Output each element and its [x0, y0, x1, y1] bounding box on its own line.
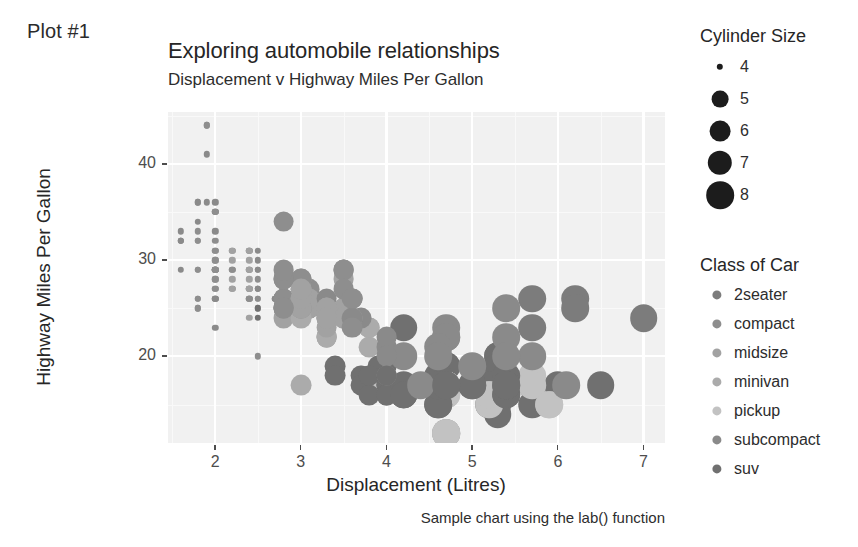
scatter-point — [212, 247, 218, 253]
y-tick-label: 20 — [138, 346, 156, 364]
x-tick-mark — [471, 445, 473, 450]
scatter-point — [212, 286, 218, 292]
legend-class-of-car-item[interactable]: suv — [700, 454, 820, 483]
legend-class-of-car-label: suv — [734, 460, 759, 478]
scatter-point — [407, 371, 435, 399]
scatter-point — [424, 343, 452, 371]
y-tick-label: 40 — [138, 154, 156, 172]
legend-class-of-car-item[interactable]: compact — [700, 309, 820, 338]
legend-cylinder-size-item[interactable]: 6 — [700, 115, 806, 147]
x-tick-label: 2 — [211, 453, 220, 471]
scatter-point — [458, 352, 486, 380]
scatter-point — [333, 259, 354, 280]
scatter-point — [325, 365, 346, 386]
scatter-point — [195, 228, 201, 234]
x-tick-mark — [386, 445, 388, 450]
scatter-point — [203, 122, 209, 128]
x-tick-mark — [214, 445, 216, 450]
legend-class-of-car-label: midsize — [734, 344, 788, 362]
scatter-point — [246, 267, 252, 273]
legend-cylinder-size-key-icon — [700, 83, 740, 115]
x-tick-label: 7 — [639, 453, 648, 471]
legend-cylinder-size-label: 8 — [740, 186, 749, 204]
x-tick-label: 5 — [468, 453, 477, 471]
scatter-point — [212, 295, 218, 301]
scatter-point — [195, 267, 201, 273]
legend-class-of-car-key-icon — [700, 308, 734, 340]
scatter-point — [273, 298, 294, 319]
x-axis-title: Displacement (Litres) — [326, 474, 506, 496]
scatter-point — [255, 353, 261, 359]
scatter-point — [195, 238, 201, 244]
legend-cylinder-size-item[interactable]: 4 — [700, 51, 806, 83]
legend-cylinder-size-rows: 45678 — [700, 51, 806, 211]
legend-cylinder-size-item[interactable]: 5 — [700, 83, 806, 115]
scatter-point — [255, 276, 261, 282]
scatter-point — [518, 343, 546, 371]
grid-line-minor-horizontal — [168, 212, 665, 213]
legend-cylinder-size-item[interactable]: 8 — [700, 179, 806, 211]
scatter-point — [212, 324, 218, 330]
chart-subtitle: Displacement v Highway Miles Per Gallon — [168, 70, 484, 90]
scatter-point — [316, 308, 337, 329]
legend-cylinder-size-label: 4 — [740, 58, 749, 76]
chart-caption: Sample chart using the lab() function — [421, 509, 665, 526]
y-tick-mark — [162, 259, 167, 261]
legend-cylinder-size-label: 6 — [740, 122, 749, 140]
scatter-point — [246, 257, 252, 263]
scatter-point — [229, 267, 235, 273]
scatter-point — [178, 228, 184, 234]
scatter-point — [178, 267, 184, 273]
y-axis-title: Highway Miles Per Gallon — [33, 168, 55, 386]
legend-class-of-car-item[interactable]: minivan — [700, 367, 820, 396]
legend-class-of-car-item[interactable]: midsize — [700, 338, 820, 367]
scatter-point — [273, 211, 294, 232]
scatter-point — [255, 247, 261, 253]
legend-class-of-car-label: compact — [734, 315, 794, 333]
x-tick-mark — [557, 445, 559, 450]
scatter-point — [376, 327, 397, 348]
scatter-point — [203, 151, 209, 157]
scatter-point — [376, 365, 397, 386]
legend-cylinder-size-key-icon — [700, 115, 740, 147]
legend-class-of-car: Class of Car 2seatercompactmidsizeminiva… — [700, 255, 820, 483]
legend-cylinder-size-item[interactable]: 7 — [700, 147, 806, 179]
legend-cylinder-size-title: Cylinder Size — [700, 26, 806, 47]
legend-class-of-car-key-icon — [700, 337, 734, 369]
legend-class-of-car-title: Class of Car — [700, 255, 820, 276]
scatter-point — [255, 257, 261, 263]
scatter-point — [493, 294, 521, 322]
legend-class-of-car-key-icon — [700, 395, 734, 427]
legend-class-of-car-key-icon — [700, 366, 734, 398]
scatter-point — [493, 343, 521, 371]
plot-page: Plot #1 Exploring automobile relationshi… — [0, 0, 858, 547]
scatter-point — [229, 276, 235, 282]
legend-class-of-car-item[interactable]: subcompact — [700, 425, 820, 454]
scatter-point — [493, 371, 521, 399]
legend-class-of-car-key-icon — [700, 453, 734, 485]
grid-line-minor-horizontal — [168, 116, 665, 117]
scatter-point — [212, 267, 218, 273]
x-tick-label: 3 — [296, 453, 305, 471]
scatter-point — [273, 259, 294, 280]
scatter-point — [255, 295, 261, 301]
x-tick-mark — [643, 445, 645, 450]
scatter-point — [229, 257, 235, 263]
x-tick-label: 6 — [553, 453, 562, 471]
scatter-point — [561, 294, 589, 322]
grid-line-minor-vertical — [172, 112, 173, 443]
y-tick-mark — [162, 355, 167, 357]
scatter-point — [212, 257, 218, 263]
legend-class-of-car-item[interactable]: 2seater — [700, 280, 820, 309]
plot-panel — [168, 112, 665, 443]
scatter-point — [178, 238, 184, 244]
scatter-point — [246, 247, 252, 253]
legend-class-of-car-rows: 2seatercompactmidsizeminivanpickupsubcom… — [700, 280, 820, 483]
chart-title: Exploring automobile relationships — [168, 38, 500, 64]
scatter-point — [433, 420, 461, 443]
scatter-point — [246, 286, 252, 292]
scatter-point — [342, 317, 363, 338]
y-tick-mark — [162, 163, 167, 165]
legend-class-of-car-item[interactable]: pickup — [700, 396, 820, 425]
legend-cylinder-size: Cylinder Size 45678 — [700, 26, 806, 211]
